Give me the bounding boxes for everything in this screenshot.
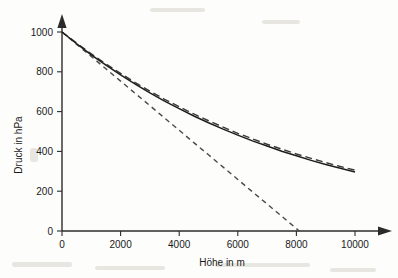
y-tick-label: 1000 bbox=[31, 27, 54, 38]
y-tick-label: 600 bbox=[36, 106, 53, 117]
paper-texture bbox=[12, 8, 376, 272]
x-tick-label: 8000 bbox=[285, 239, 308, 250]
data-series-group bbox=[62, 32, 355, 231]
y-tick-label: 200 bbox=[36, 186, 53, 197]
x-tick-marks bbox=[62, 231, 355, 236]
y-axis-title: Druck in hPa bbox=[13, 116, 24, 174]
x-axis-title: Höhe in m bbox=[199, 257, 245, 268]
y-tick-label: 400 bbox=[36, 146, 53, 157]
chart-figure: 0 200 400 600 800 1000 0 2000 4000 6000 … bbox=[0, 0, 398, 278]
y-tick-labels: 0 200 400 600 800 1000 bbox=[31, 27, 54, 237]
y-tick-label: 800 bbox=[36, 66, 53, 77]
x-tick-labels: 0 2000 4000 6000 8000 10000 bbox=[59, 239, 369, 250]
series-linear-approximation bbox=[62, 32, 299, 231]
x-tick-label: 6000 bbox=[227, 239, 250, 250]
y-tick-marks bbox=[57, 32, 62, 231]
pressure-altitude-chart: 0 200 400 600 800 1000 0 2000 4000 6000 … bbox=[0, 0, 398, 278]
x-tick-label: 2000 bbox=[109, 239, 132, 250]
series-approximation bbox=[62, 32, 355, 170]
y-axis bbox=[57, 14, 66, 231]
y-tick-label: 0 bbox=[47, 226, 53, 237]
x-tick-label: 10000 bbox=[341, 239, 369, 250]
x-axis bbox=[62, 226, 392, 235]
x-tick-label: 0 bbox=[59, 239, 65, 250]
x-axis-arrow-icon bbox=[378, 226, 392, 235]
y-axis-arrow-icon bbox=[57, 14, 66, 28]
series-barometric-exact bbox=[62, 32, 355, 172]
x-tick-label: 4000 bbox=[168, 239, 191, 250]
